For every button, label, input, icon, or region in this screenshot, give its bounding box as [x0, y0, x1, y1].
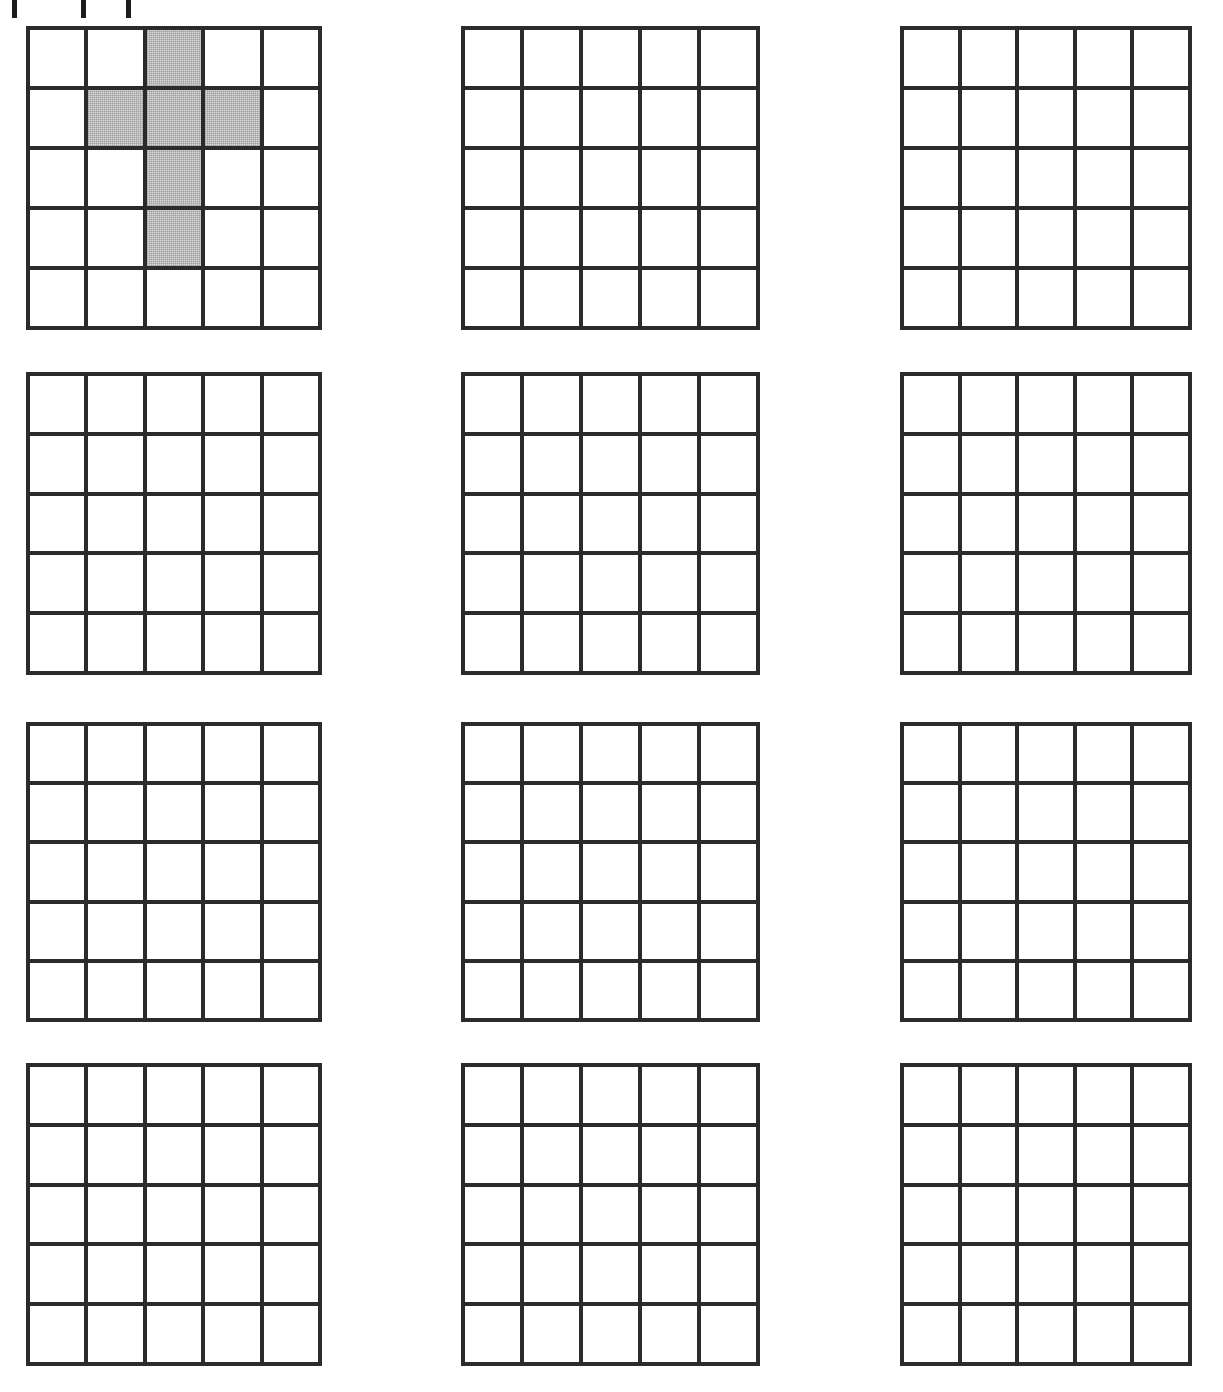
grid-cell[interactable] — [205, 963, 263, 1022]
grid-cell[interactable] — [701, 904, 760, 963]
grid-cell[interactable] — [264, 615, 322, 675]
grid-cell[interactable] — [1019, 1246, 1077, 1306]
grid-cell[interactable] — [1019, 1187, 1077, 1247]
grid-cell[interactable] — [1019, 1067, 1077, 1127]
grid-cell[interactable] — [1077, 1306, 1135, 1366]
grid-cell[interactable] — [1019, 1127, 1077, 1187]
grid-cell[interactable] — [1134, 1306, 1192, 1366]
grid-cell[interactable] — [524, 555, 583, 615]
grid-cell[interactable] — [583, 615, 642, 675]
grid-cell[interactable] — [701, 615, 760, 675]
grid-cell[interactable] — [642, 1246, 701, 1306]
grid-cell[interactable] — [1134, 90, 1192, 150]
grid-cell[interactable] — [147, 1246, 205, 1306]
grid-cell[interactable] — [205, 1187, 263, 1247]
grid-cell[interactable] — [1019, 785, 1077, 844]
grid-cell[interactable] — [583, 904, 642, 963]
grid-cell[interactable] — [701, 1067, 760, 1127]
grid-cell[interactable] — [30, 1306, 88, 1366]
grid-cell[interactable] — [1077, 963, 1135, 1022]
grid-cell[interactable] — [264, 496, 322, 556]
grid-cell[interactable] — [962, 904, 1020, 963]
grid-cell[interactable] — [147, 1187, 205, 1247]
grid-cell[interactable] — [583, 150, 642, 210]
grid-cell[interactable] — [264, 270, 322, 330]
grid-cell[interactable] — [88, 904, 146, 963]
grid-cell[interactable] — [701, 963, 760, 1022]
grid-cell[interactable] — [1019, 30, 1077, 90]
grid-cell[interactable] — [465, 436, 524, 496]
grid-cell[interactable] — [465, 963, 524, 1022]
grid-cell[interactable] — [1019, 90, 1077, 150]
grid-cell[interactable] — [524, 963, 583, 1022]
grid-cell[interactable] — [465, 1246, 524, 1306]
grid-cell[interactable] — [642, 1187, 701, 1247]
grid-cell[interactable] — [583, 1187, 642, 1247]
grid-cell[interactable] — [1077, 844, 1135, 903]
grid-cell[interactable] — [88, 726, 146, 785]
grid-cell[interactable] — [524, 1067, 583, 1127]
grid-cell[interactable] — [962, 210, 1020, 270]
grid-cell[interactable] — [524, 30, 583, 90]
grid-cell[interactable] — [264, 726, 322, 785]
grid-cell[interactable] — [264, 785, 322, 844]
grid-cell[interactable] — [642, 436, 701, 496]
grid-cell[interactable] — [701, 726, 760, 785]
grid-cell[interactable] — [962, 436, 1020, 496]
grid-cell[interactable] — [962, 150, 1020, 210]
grid-cell[interactable] — [701, 1306, 760, 1366]
grid-cell[interactable] — [88, 785, 146, 844]
grid-cell[interactable] — [583, 963, 642, 1022]
grid-cell[interactable] — [642, 555, 701, 615]
grid-cell[interactable] — [1077, 615, 1135, 675]
grid-cell[interactable] — [642, 726, 701, 785]
grid-cell[interactable] — [30, 210, 88, 270]
grid-cell[interactable] — [465, 785, 524, 844]
grid-cell[interactable] — [147, 1306, 205, 1366]
grid-cell[interactable] — [642, 150, 701, 210]
grid-cell[interactable] — [701, 844, 760, 903]
grid-cell[interactable] — [30, 844, 88, 903]
grid-cell[interactable] — [30, 904, 88, 963]
grid-cell[interactable] — [1077, 376, 1135, 436]
grid-cell[interactable] — [1077, 555, 1135, 615]
grid-cell[interactable] — [147, 726, 205, 785]
grid-cell[interactable] — [88, 963, 146, 1022]
grid-cell[interactable] — [701, 376, 760, 436]
grid-cell[interactable] — [583, 1306, 642, 1366]
grid-cell[interactable] — [1077, 904, 1135, 963]
grid-cell[interactable] — [1019, 1306, 1077, 1366]
grid-cell[interactable] — [30, 963, 88, 1022]
grid-cell[interactable] — [904, 1187, 962, 1247]
grid-cell[interactable] — [904, 376, 962, 436]
grid-cell[interactable] — [642, 615, 701, 675]
grid-cell[interactable] — [904, 270, 962, 330]
grid-cell[interactable] — [465, 30, 524, 90]
grid-cell[interactable] — [583, 1067, 642, 1127]
grid-cell[interactable] — [30, 1127, 88, 1187]
grid-cell[interactable] — [701, 30, 760, 90]
grid-cell[interactable] — [524, 904, 583, 963]
grid-cell[interactable] — [264, 1306, 322, 1366]
grid-cell[interactable] — [465, 270, 524, 330]
grid-cell[interactable] — [465, 844, 524, 903]
grid-cell[interactable] — [583, 270, 642, 330]
grid-cell[interactable] — [642, 496, 701, 556]
grid-cell[interactable] — [1019, 844, 1077, 903]
grid-cell[interactable] — [465, 555, 524, 615]
grid-cell[interactable] — [88, 555, 146, 615]
grid-cell[interactable] — [904, 150, 962, 210]
grid-cell[interactable] — [904, 496, 962, 556]
grid-cell-shaded[interactable] — [147, 90, 205, 150]
grid-cell[interactable] — [1134, 963, 1192, 1022]
grid-cell[interactable] — [205, 785, 263, 844]
grid-cell[interactable] — [205, 210, 263, 270]
grid-cell[interactable] — [205, 1127, 263, 1187]
grid-cell[interactable] — [1134, 376, 1192, 436]
grid-cell[interactable] — [147, 270, 205, 330]
grid-cell[interactable] — [962, 30, 1020, 90]
grid-cell[interactable] — [642, 90, 701, 150]
grid-cell-shaded[interactable] — [147, 30, 205, 90]
grid-cell[interactable] — [264, 150, 322, 210]
grid-cell[interactable] — [904, 436, 962, 496]
